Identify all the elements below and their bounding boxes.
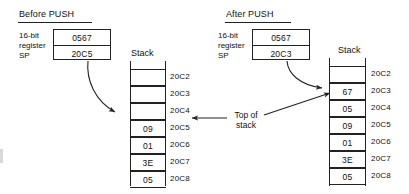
- stack-address-before-1: 20C3: [170, 89, 190, 98]
- stack-cell-after-20C3: 67: [329, 83, 366, 100]
- top-of-stack-line2: stack: [228, 120, 264, 130]
- register-value-before-lower: 20C5: [54, 46, 110, 61]
- stack-address-before-0: 20C2: [170, 72, 190, 81]
- stack-address-after-3: 20C5: [371, 120, 391, 129]
- register-label-after-line1: 16-bit: [218, 31, 238, 41]
- figure-stack-push: Before PUSH 16-bit register SP 0567 20C5…: [0, 0, 409, 194]
- arrow-sp-to-top-of-stack-after: [287, 61, 322, 88]
- register-label-before-line1: 16-bit: [19, 31, 39, 41]
- stack-cell-before-20C7: 3E: [130, 154, 166, 171]
- register-label-before-line2: register: [19, 41, 46, 51]
- stack-cell-before-20C4: [130, 103, 166, 120]
- panel-heading-before: Before PUSH: [19, 9, 74, 19]
- panel-heading-after: After PUSH: [226, 9, 274, 19]
- stack-address-before-6: 20C8: [170, 174, 190, 183]
- stack-title-after: Stack: [338, 45, 361, 55]
- stack-address-after-4: 20C6: [371, 137, 391, 146]
- stack-address-after-2: 20C4: [371, 103, 391, 112]
- stack-address-before-4: 20C6: [170, 140, 190, 149]
- stack-cell-after-20C2: [329, 66, 366, 83]
- register-value-after-upper: 0567: [253, 30, 309, 46]
- stack-title-before: Stack: [131, 48, 154, 58]
- stack-cell-after-20C7: 3E: [329, 151, 366, 168]
- stack-address-before-5: 20C7: [170, 157, 190, 166]
- register-value-before-upper: 0567: [54, 30, 110, 46]
- register-box-after: 0567 20C3: [252, 29, 310, 60]
- stack-cell-before-20C5: 09: [130, 120, 166, 137]
- stack-cell-after-20C6: 01: [329, 134, 366, 151]
- page-edge-artifact: [0, 149, 3, 163]
- stack-address-before-3: 20C5: [170, 123, 190, 132]
- register-value-after-lower: 20C3: [253, 46, 309, 61]
- stack-cell-before-20C3: [130, 86, 166, 103]
- stack-address-after-5: 20C7: [371, 154, 391, 163]
- stack-cell-after-20C5: 09: [329, 117, 366, 134]
- stack-address-before-2: 20C4: [170, 106, 190, 115]
- top-of-stack-line1: Top of: [228, 110, 264, 120]
- stack-cell-after-20C8: 05: [329, 168, 366, 185]
- register-label-after-line2: register: [218, 41, 245, 51]
- stack-cell-before-20C6: 01: [130, 137, 166, 154]
- stack-cell-before-20C8: 05: [130, 171, 166, 188]
- top-of-stack-annotation: Top of stack: [228, 110, 264, 130]
- stack-address-after-6: 20C8: [371, 171, 391, 180]
- arrow-tos-label-to-after-row: [264, 93, 330, 115]
- stack-address-after-1: 20C3: [371, 86, 391, 95]
- stack-cell-after-20C4: 05: [329, 100, 366, 117]
- stack-cell-before-20C2: [130, 69, 166, 86]
- panel-heading-before-underline: [18, 22, 92, 23]
- register-label-after-line3: SP: [218, 51, 229, 61]
- stack-address-after-0: 20C2: [371, 69, 391, 78]
- arrow-sp-to-top-of-stack-before: [88, 61, 115, 112]
- register-box-before: 0567 20C5: [53, 29, 111, 60]
- panel-heading-after-underline: [225, 22, 291, 23]
- register-label-before-line3: SP: [19, 51, 30, 61]
